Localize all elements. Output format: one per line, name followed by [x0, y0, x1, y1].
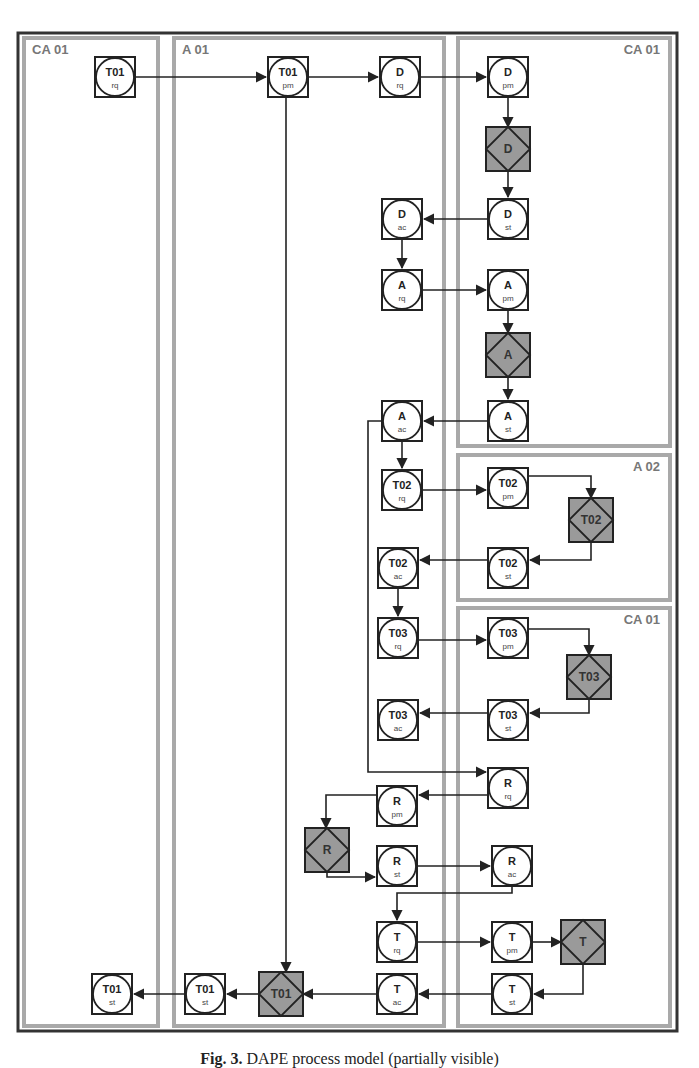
node-t01-pm[interactable]: T01pm: [268, 57, 308, 97]
node-transaction-label: T: [509, 931, 516, 943]
lane-label: CA 01: [624, 42, 660, 57]
node-act-label: st: [109, 998, 116, 1007]
node-transaction-label: T01: [271, 987, 292, 1001]
node-act-label: pm: [282, 81, 293, 90]
node-transaction-label: R: [508, 855, 516, 867]
figure-caption: Fig. 3. DAPE process model (partially vi…: [0, 1050, 699, 1068]
node-transaction-label: A: [398, 279, 406, 291]
node-transaction-label: D: [504, 208, 512, 220]
node-a-ex[interactable]: A: [486, 333, 530, 377]
node-transaction-label: T: [509, 983, 516, 995]
node-transaction-label: R: [393, 855, 401, 867]
node-transaction-label: R: [323, 843, 332, 857]
node-a-pm[interactable]: Apm: [488, 270, 528, 310]
node-transaction-label: T01: [106, 66, 125, 78]
node-act-label: ac: [508, 870, 516, 879]
node-a-st[interactable]: Ast: [488, 401, 528, 441]
node-d-rq[interactable]: Drq: [380, 57, 420, 97]
node-transaction-label: T01: [103, 983, 122, 995]
node-act-label: st: [509, 998, 516, 1007]
node-transaction-label: D: [398, 208, 406, 220]
lane-label: A 02: [633, 459, 660, 474]
node-transaction-label: T02: [581, 513, 602, 527]
node-act-label: ac: [398, 223, 406, 232]
node-act-label: rq: [111, 81, 118, 90]
node-transaction-label: T02: [389, 557, 408, 569]
node-act-label: pm: [502, 642, 513, 651]
node-transaction-label: R: [504, 777, 512, 789]
node-r-pm[interactable]: Rpm: [377, 786, 417, 826]
node-act-label: rq: [398, 494, 405, 503]
lane-border: [458, 38, 670, 446]
node-act-label: rq: [393, 946, 400, 955]
node-t03-ex[interactable]: T03: [567, 655, 611, 699]
node-t03-pm[interactable]: T03pm: [488, 618, 528, 658]
caption-text: DAPE process model (partially visible): [246, 1050, 498, 1067]
node-transaction-label: T03: [579, 670, 600, 684]
node-transaction-label: T01: [279, 66, 298, 78]
node-act-label: ac: [394, 724, 402, 733]
lane-label: CA 01: [32, 42, 68, 57]
lane-border: [24, 38, 158, 1026]
node-t02-rq[interactable]: T02rq: [382, 470, 422, 510]
node-d-pm[interactable]: Dpm: [488, 57, 528, 97]
node-t03-rq[interactable]: T03rq: [378, 618, 418, 658]
node-t01-rq[interactable]: T01rq: [95, 57, 135, 97]
node-act-label: pm: [506, 946, 517, 955]
node-act-label: st: [394, 870, 401, 879]
node-act-label: st: [505, 425, 512, 434]
node-act-label: ac: [393, 998, 401, 1007]
node-act-label: ac: [398, 425, 406, 434]
node-r-rq[interactable]: Rrq: [488, 768, 528, 808]
node-act-label: rq: [394, 642, 401, 651]
node-transaction-label: D: [504, 142, 513, 156]
node-t-pm[interactable]: Tpm: [492, 922, 532, 962]
node-t-ac[interactable]: Tac: [377, 974, 417, 1014]
node-transaction-label: T03: [389, 627, 408, 639]
lane-label: CA 01: [624, 612, 660, 627]
node-a-ac[interactable]: Aac: [382, 401, 422, 441]
node-transaction-label: A: [504, 410, 512, 422]
node-t-ex[interactable]: T: [561, 920, 605, 964]
node-d-ex[interactable]: D: [486, 127, 530, 171]
node-t02-ex[interactable]: T02: [569, 498, 613, 542]
node-act-label: st: [505, 572, 512, 581]
node-d-st[interactable]: Dst: [488, 199, 528, 239]
node-t01-st-a01[interactable]: T01st: [185, 974, 225, 1014]
node-t02-ac[interactable]: T02ac: [378, 548, 418, 588]
node-act-label: rq: [504, 792, 511, 801]
node-t01-ex[interactable]: T01: [259, 972, 303, 1016]
node-r-ex[interactable]: R: [305, 828, 349, 872]
node-r-ac[interactable]: Rac: [492, 846, 532, 886]
node-transaction-label: A: [504, 348, 513, 362]
node-t-st[interactable]: Tst: [492, 974, 532, 1014]
node-act-label: pm: [502, 294, 513, 303]
node-transaction-label: T: [394, 983, 401, 995]
node-a-rq[interactable]: Arq: [382, 270, 422, 310]
node-t-rq[interactable]: Trq: [377, 922, 417, 962]
node-act-label: st: [202, 998, 209, 1007]
node-transaction-label: D: [504, 66, 512, 78]
swimlane-lane-ca01-top: CA 01: [458, 38, 670, 446]
lane-label: A 01: [182, 42, 209, 57]
node-transaction-label: T: [579, 935, 587, 949]
node-transaction-label: T03: [499, 627, 518, 639]
node-transaction-label: T03: [499, 709, 518, 721]
node-r-st[interactable]: Rst: [377, 846, 417, 886]
node-transaction-label: A: [398, 410, 406, 422]
node-t02-pm[interactable]: T02pm: [488, 468, 528, 508]
node-d-ac[interactable]: Dac: [382, 199, 422, 239]
node-t03-ac[interactable]: T03ac: [378, 700, 418, 740]
node-t01-st-ca01[interactable]: T01st: [92, 974, 132, 1014]
node-transaction-label: T: [394, 931, 401, 943]
node-act-label: pm: [391, 810, 402, 819]
node-act-label: pm: [502, 492, 513, 501]
node-transaction-label: T02: [499, 557, 518, 569]
node-transaction-label: D: [396, 66, 404, 78]
node-transaction-label: T02: [393, 479, 412, 491]
node-transaction-label: T02: [499, 477, 518, 489]
node-t03-st[interactable]: T03st: [488, 700, 528, 740]
node-act-label: pm: [502, 81, 513, 90]
node-t02-st[interactable]: T02st: [488, 548, 528, 588]
